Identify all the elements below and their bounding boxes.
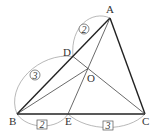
ratio-DB: 3 (32, 70, 38, 81)
label-C: C (142, 115, 149, 127)
segment-BO (17, 69, 88, 115)
label-B: B (9, 115, 16, 127)
ratio-EC: 3 (105, 120, 111, 131)
label-D: D (63, 46, 71, 58)
label-E: E (65, 115, 72, 127)
label-A: A (106, 3, 114, 15)
ratio-AD: 2 (82, 24, 87, 35)
ratio-BE: 2 (40, 119, 45, 130)
geometry-diagram: A B C D E O 2 3 2 3 (0, 0, 163, 136)
label-O: O (87, 72, 95, 84)
segment-AE (68, 18, 110, 114)
segment-AB (17, 18, 110, 114)
